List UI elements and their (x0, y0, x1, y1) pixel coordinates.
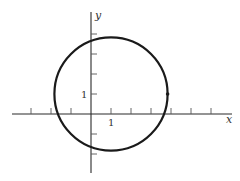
x-axis-label: x (226, 113, 233, 126)
x-tick-label-1: 1 (108, 117, 114, 128)
y-axis-label: y (94, 9, 102, 22)
marked-point (166, 92, 170, 96)
y-axis-ticks (91, 34, 97, 154)
circle-curve (54, 37, 167, 150)
y-tick-label-1: 1 (81, 89, 87, 100)
circle-diagram: y x 1 1 (0, 0, 240, 181)
